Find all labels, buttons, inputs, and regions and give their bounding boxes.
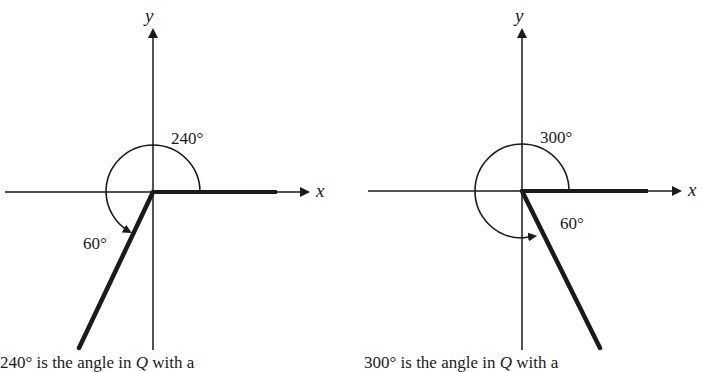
angle-label: 240° bbox=[171, 130, 203, 147]
x-axis-label: x bbox=[688, 180, 696, 199]
coordinate-plane-300 bbox=[352, 0, 703, 370]
diagram-300: y x 300° 60° 300° is the angle in Q with… bbox=[352, 0, 703, 370]
angle-label: 300° bbox=[540, 129, 572, 146]
caption: 300° is the angle in Q with a bbox=[364, 354, 558, 371]
reference-angle-label: 60° bbox=[83, 235, 107, 252]
terminal-side bbox=[79, 192, 153, 348]
y-axis-label: y bbox=[145, 6, 153, 25]
y-axis-label: y bbox=[515, 6, 523, 25]
x-axis-label: x bbox=[316, 181, 324, 200]
coordinate-plane-240 bbox=[0, 0, 351, 370]
diagram-240: y x 240° 60° 240° is the angle in Q with… bbox=[0, 0, 351, 370]
reference-angle-label: 60° bbox=[560, 215, 584, 232]
caption: 240° is the angle in Q with a bbox=[0, 354, 194, 371]
